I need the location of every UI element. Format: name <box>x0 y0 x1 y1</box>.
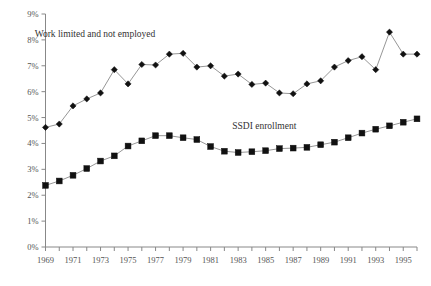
data-point-diamond <box>276 90 282 96</box>
data-point-square <box>153 133 159 139</box>
data-point-square <box>345 135 351 141</box>
line-chart: 0%1%2%3%4%5%6%7%8%9%19691971197319751977… <box>0 0 431 286</box>
chart-container: 0%1%2%3%4%5%6%7%8%9%19691971197319751977… <box>0 0 431 286</box>
data-point-square <box>56 178 62 184</box>
series-label-square: SSDI enrollment <box>232 121 296 131</box>
x-tick-label: 1985 <box>257 255 274 265</box>
y-tick-label: 6% <box>27 87 38 97</box>
data-point-square <box>373 126 379 132</box>
data-point-square <box>43 182 49 188</box>
x-tick-label: 1987 <box>285 255 302 265</box>
y-tick-label: 1% <box>27 216 38 226</box>
data-point-square <box>139 138 145 144</box>
data-point-diamond <box>97 90 103 96</box>
x-tick-label: 1977 <box>147 255 164 265</box>
y-tick-label: 4% <box>27 138 38 148</box>
data-point-square <box>359 130 365 136</box>
x-tick-label: 1983 <box>230 255 247 265</box>
x-tick-label: 1973 <box>92 255 109 265</box>
data-point-diamond <box>304 81 310 87</box>
x-tick-label: 1995 <box>395 255 412 265</box>
series-label-diamond: Work limited and not employed <box>35 29 156 39</box>
data-point-diamond <box>84 96 90 102</box>
data-point-diamond <box>263 80 269 86</box>
y-tick-label: 9% <box>27 9 38 19</box>
data-point-square <box>249 149 255 155</box>
data-point-square <box>318 142 324 148</box>
data-point-square <box>125 143 131 149</box>
data-point-diamond <box>400 51 406 57</box>
x-tick-label: 1981 <box>202 255 219 265</box>
data-point-square <box>98 158 104 164</box>
data-point-diamond <box>139 61 145 67</box>
y-tick-label: 2% <box>27 190 38 200</box>
data-point-square <box>332 139 338 145</box>
data-point-square <box>221 148 227 154</box>
data-point-square <box>84 166 90 172</box>
data-point-square <box>208 144 214 150</box>
data-point-square <box>277 146 283 152</box>
data-point-square <box>263 148 269 154</box>
y-tick-label: 5% <box>27 113 38 123</box>
data-point-diamond <box>290 91 296 97</box>
x-tick-label: 1979 <box>175 255 192 265</box>
data-point-square <box>290 145 296 151</box>
data-point-diamond <box>345 58 351 64</box>
data-point-square <box>180 135 186 141</box>
x-tick-label: 1991 <box>340 255 357 265</box>
data-point-diamond <box>386 29 392 35</box>
y-tick-label: 3% <box>27 164 38 174</box>
y-tick-label: 7% <box>27 61 38 71</box>
data-point-diamond <box>414 51 420 57</box>
series-line-diamond <box>46 32 418 127</box>
x-tick-label: 1989 <box>312 255 329 265</box>
data-point-square <box>304 144 310 150</box>
x-tick-label: 1975 <box>120 255 137 265</box>
data-point-square <box>194 137 200 143</box>
data-point-square <box>70 172 76 178</box>
data-point-square <box>400 119 406 125</box>
x-tick-label: 1969 <box>37 255 54 265</box>
x-tick-label: 1971 <box>65 255 82 265</box>
data-point-square <box>235 150 241 156</box>
data-point-diamond <box>42 124 48 130</box>
data-point-square <box>414 116 420 122</box>
data-point-square <box>111 153 117 159</box>
y-tick-label: 0% <box>27 242 38 252</box>
data-point-square <box>166 133 172 139</box>
x-tick-label: 1993 <box>367 255 384 265</box>
data-point-square <box>387 123 393 129</box>
